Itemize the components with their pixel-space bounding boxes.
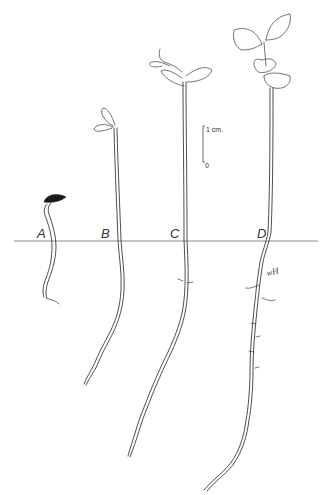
seed-coat (44, 195, 66, 203)
seedling-illustration: A B C D 1 cm. 0 wH (0, 0, 320, 495)
cotyledon-d-front (264, 73, 290, 88)
stage-label-d: D (257, 226, 266, 241)
scale-bar-bottom-label: 0 (205, 162, 209, 169)
true-leaf-d-right (266, 14, 290, 40)
true-leaf-d-left (233, 29, 262, 50)
stage-label-c: C (170, 226, 180, 241)
stem-d-right (207, 88, 273, 491)
seedling-c (128, 49, 212, 457)
stage-label-a: A (36, 226, 46, 241)
artist-signature: wH (265, 265, 280, 277)
stem-c-right (130, 82, 188, 457)
hypocotyl-a-right (46, 203, 56, 298)
leaf-bud-c (150, 49, 182, 72)
scale-bar: 1 cm. 0 (203, 126, 223, 169)
stem-c-left (128, 82, 185, 456)
cotyledon-c-right (186, 68, 212, 82)
seedling-a (43, 195, 66, 304)
cotyledon-b-upper (102, 108, 115, 126)
root-tip-a (46, 298, 59, 304)
seedling-b (84, 108, 124, 385)
stage-label-b: B (101, 226, 110, 241)
epicotyl-d (264, 42, 266, 66)
stem-d-left (204, 88, 270, 490)
lateral-roots-c (178, 279, 193, 283)
cotyledon-b-lower (94, 125, 113, 132)
seedling-d (204, 14, 290, 491)
cotyledon-d-back (254, 59, 276, 73)
stem-b-right (86, 128, 124, 385)
stem-b-left (84, 128, 121, 384)
cotyledon-c-left (161, 70, 184, 86)
scale-bar-top-label: 1 cm. (206, 126, 223, 133)
